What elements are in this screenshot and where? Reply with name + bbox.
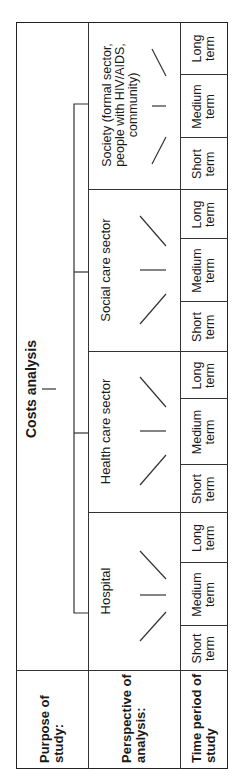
term-social-short: Short term: [180, 302, 228, 352]
term-society-long: Long term: [180, 22, 228, 75]
perspective-society: Society (formal sector, people with HIV/…: [90, 31, 150, 179]
perspective-health-care-sector: Health care sector: [96, 352, 116, 511]
perspective-social-care-sector: Social care sector: [96, 190, 116, 350]
term-social-long: Long term: [180, 190, 228, 239]
term-hospital-short: Short term: [180, 626, 228, 671]
term-health-long: Long term: [180, 352, 228, 399]
costs-analysis-framework-diagram: Purpose of study: Perspective of analysi…: [16, 22, 228, 769]
term-hospital-medium: Medium term: [180, 563, 228, 626]
term-hospital-long: Long term: [180, 513, 228, 563]
term-society-medium: Medium term: [180, 75, 228, 138]
perspective-hospital: Hospital: [96, 513, 116, 669]
term-social-medium: Medium term: [180, 239, 228, 302]
term-health-medium: Medium term: [180, 399, 228, 465]
term-health-short: Short term: [180, 465, 228, 513]
term-society-short: Short term: [180, 138, 228, 190]
